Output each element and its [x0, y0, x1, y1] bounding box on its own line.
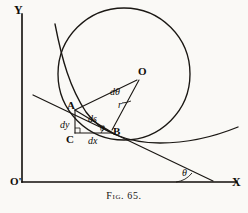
- figure-drawing-canvas: [0, 0, 248, 213]
- caption-number: 65.: [127, 190, 141, 201]
- figure-caption: Fig. 65.: [0, 190, 248, 201]
- d-theta-angle-arc: [122, 101, 131, 103]
- radius-line-to-a: [75, 80, 137, 110]
- figure-65-curvature-diagram: Y X O' O A B C r dθ ds dx dy θ θ Fig. 65…: [0, 0, 248, 213]
- center-point-label-o: O: [138, 66, 147, 77]
- x-axis-label: X: [232, 176, 241, 188]
- dx-label: dx: [88, 136, 97, 146]
- ds-label: ds: [88, 114, 97, 124]
- radius-label-r: r: [118, 100, 122, 110]
- d-theta-label: dθ: [110, 87, 120, 97]
- theta-label-axis: θ: [182, 168, 187, 178]
- point-label-b: B: [113, 126, 120, 137]
- point-label-a: A: [67, 100, 75, 111]
- dy-label: dy: [60, 120, 69, 130]
- theta-label-triangle: θ: [100, 124, 104, 133]
- caption-prefix: Fig.: [106, 190, 124, 201]
- circle-of-curvature: [58, 8, 190, 140]
- right-angle-mark-at-c: [75, 128, 80, 133]
- point-label-c: C: [66, 134, 74, 145]
- origin-label: O': [10, 176, 22, 187]
- y-axis-label: Y: [14, 4, 23, 16]
